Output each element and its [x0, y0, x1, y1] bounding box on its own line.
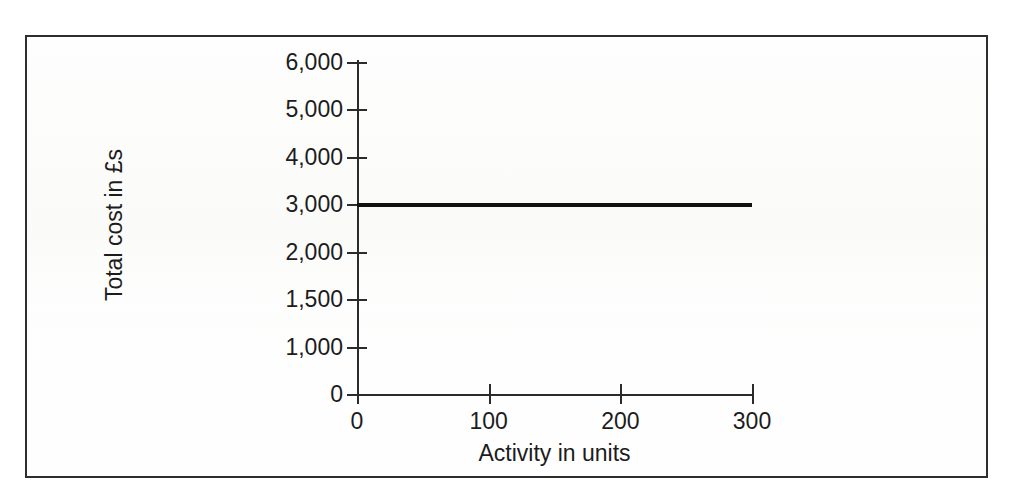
- x-axis-title: Activity in units: [357, 440, 752, 466]
- y-axis-tick: [347, 62, 367, 64]
- x-axis-tick-label: 300: [712, 408, 792, 434]
- data-series-line: [357, 203, 752, 207]
- y-axis-tick: [347, 157, 367, 159]
- y-axis-tick: [347, 252, 367, 254]
- y-axis-tick-label: 2,000: [257, 241, 343, 264]
- x-axis-tick-label: 200: [580, 408, 660, 434]
- x-axis-tick: [357, 384, 359, 404]
- x-axis-tick: [752, 384, 754, 404]
- y-axis-tick-label: 4,000: [257, 146, 343, 169]
- y-axis-tick-label: 1,000: [257, 336, 343, 359]
- y-axis-tick: [347, 347, 367, 349]
- y-axis-tick-label: 0: [257, 383, 343, 406]
- x-axis-line: [357, 394, 752, 396]
- y-axis-title: Total cost in £s: [101, 75, 127, 375]
- y-axis-tick-label: 5,000: [257, 98, 343, 121]
- y-axis-tick-label: 6,000: [257, 51, 343, 74]
- figure-frame: 6,0005,0004,0003,0002,0001,5001,0000 010…: [25, 35, 988, 478]
- y-axis-tick: [347, 109, 367, 111]
- chart-plot-area: 6,0005,0004,0003,0002,0001,5001,0000 010…: [27, 37, 990, 480]
- x-axis-tick: [620, 384, 622, 404]
- y-axis-tick: [347, 299, 367, 301]
- y-axis-tick-label: 1,500: [257, 288, 343, 311]
- x-axis-tick-label: 100: [449, 408, 529, 434]
- y-axis-tick-label: 3,000: [257, 193, 343, 216]
- x-axis-tick: [489, 384, 491, 404]
- x-axis-tick-label: 0: [317, 408, 397, 434]
